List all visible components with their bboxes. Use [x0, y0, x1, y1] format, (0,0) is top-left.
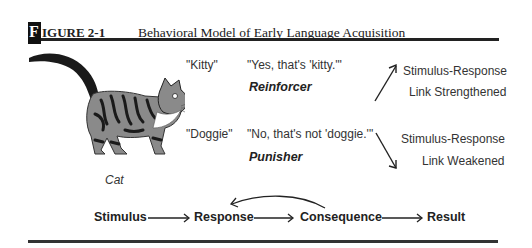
- top-rule: [41, 38, 499, 41]
- adult-reply-yes: "Yes, that's 'kitty.'": [247, 58, 342, 72]
- flow-arrows: [0, 185, 532, 230]
- arrow-up-right-icon: [372, 62, 402, 104]
- figure-initial: F: [29, 24, 39, 40]
- arrow-down-right-icon: [372, 130, 402, 172]
- child-utterance-doggie: "Doggie": [186, 127, 233, 141]
- reinforcer-label: Reinforcer: [249, 80, 312, 94]
- outcome-sr-1: Stimulus-Response: [403, 64, 507, 78]
- punisher-label: Punisher: [249, 150, 303, 164]
- outcome-weakened: Link Weakened: [422, 154, 505, 168]
- child-utterance-kitty: "Kitty": [186, 58, 218, 72]
- figure-initial-box: F: [28, 22, 41, 44]
- outcome-sr-2: Stimulus-Response: [401, 132, 505, 146]
- adult-reply-no: "No, that's not 'doggie.'": [247, 127, 373, 141]
- bottom-rule: [28, 240, 498, 243]
- outcome-strengthened: Link Strengthened: [409, 85, 506, 99]
- cat-icon: [25, 50, 185, 170]
